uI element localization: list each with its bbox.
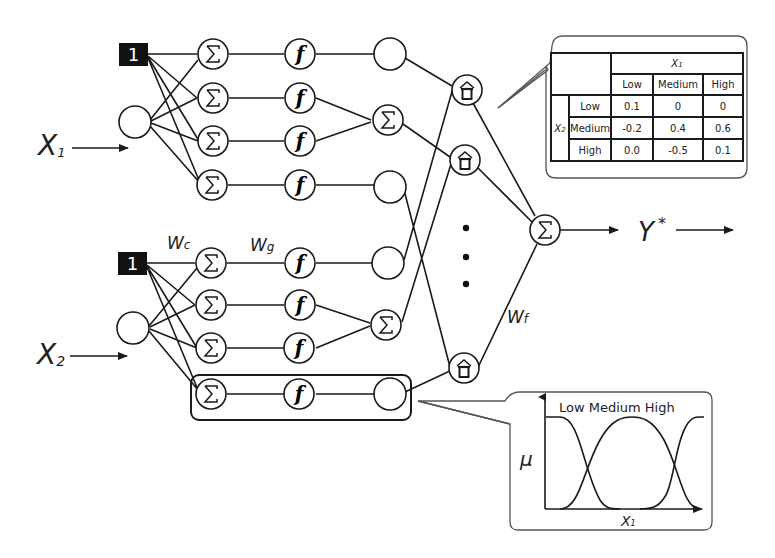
cell: 0 [653, 95, 703, 117]
cell: 0.0 [611, 139, 653, 161]
membership-plot: Low Medium High μ X1 [519, 397, 704, 529]
svg-text:1: 1 [127, 253, 138, 274]
table-row: Medium -0.2 0.4 0.6 [551, 117, 743, 139]
function-f-icon: f [285, 290, 315, 320]
row-header: High [569, 139, 611, 161]
function-f-icon: f [285, 126, 315, 156]
function-f-icon: f [285, 170, 315, 200]
output-label: Y* [638, 214, 666, 247]
rule-house-icon [450, 145, 480, 175]
col-header: Low [611, 74, 653, 95]
weight-label-wf: Wf [507, 307, 530, 327]
cell: 0.1 [703, 139, 743, 161]
mu-axis-label: μ [519, 447, 533, 471]
table-row-var: X2 [551, 95, 569, 161]
sum-icon [198, 39, 228, 69]
bias-node-1: 1 [119, 43, 148, 66]
membership-node [372, 247, 404, 279]
table-col-var: X1 [611, 53, 743, 74]
membership-nodes [371, 38, 406, 410]
membership-legend: Low Medium High [559, 400, 675, 415]
rule-house-icon [452, 75, 482, 105]
input-node-x1 [119, 106, 151, 138]
input-x2-label: X2 [35, 338, 65, 371]
cell: 0.4 [653, 117, 703, 139]
rule-house-icon [449, 353, 479, 383]
output-sum-icon [530, 215, 560, 245]
cell: 0.1 [611, 95, 653, 117]
membership-node [374, 38, 406, 70]
table-row: X2 Low 0.1 0 0 [551, 95, 743, 117]
row-header: Medium [569, 117, 611, 139]
sum-icon [196, 333, 226, 363]
svg-text:X1: X1 [36, 129, 65, 162]
sum-nodes-upper [197, 39, 228, 200]
activation-nodes: f f f f f f f f [284, 39, 315, 409]
x1-axis-label: X1 [620, 513, 636, 529]
function-f-icon: f [285, 248, 315, 278]
cell: -0.5 [653, 139, 703, 161]
svg-text:X2: X2 [35, 338, 65, 371]
table-row: High 0.0 -0.5 0.1 [551, 139, 743, 161]
function-f-icon: f [285, 83, 315, 113]
input-x1-label: X1 [36, 129, 65, 162]
membership-node [374, 378, 406, 410]
sum-icon [198, 126, 228, 156]
function-f-icon: f [285, 39, 315, 69]
weight-label-wc: Wc [167, 233, 191, 253]
function-f-icon: f [284, 333, 314, 363]
sum-icon [371, 310, 401, 340]
bias-node-2: 1 [118, 252, 147, 275]
sum-nodes-lower [196, 248, 226, 409]
sum-icon [196, 379, 226, 409]
rule-table: X1 Low Medium High X2 Low 0.1 0 0 Medium… [550, 52, 744, 162]
weight-label-wg: Wg [250, 235, 275, 255]
svg-text:1: 1 [128, 44, 139, 65]
sum-icon [196, 248, 226, 278]
sum-icon [197, 170, 227, 200]
cell: 0.6 [703, 117, 743, 139]
input-node-x2 [117, 312, 149, 344]
curve-medium [560, 417, 700, 509]
ellipsis-dots [463, 225, 469, 287]
col-header: Medium [653, 74, 703, 95]
sum-icon [373, 105, 403, 135]
curve-low [546, 417, 620, 509]
function-f-icon: f [284, 379, 314, 409]
cell: -0.2 [611, 117, 653, 139]
cell: 0 [703, 95, 743, 117]
col-header: High [703, 74, 743, 95]
row-header: Low [569, 95, 611, 117]
sum-icon [198, 83, 228, 113]
table-corner [551, 53, 611, 95]
membership-node [374, 171, 406, 203]
sum-icon [196, 290, 226, 320]
curve-high [640, 417, 704, 509]
